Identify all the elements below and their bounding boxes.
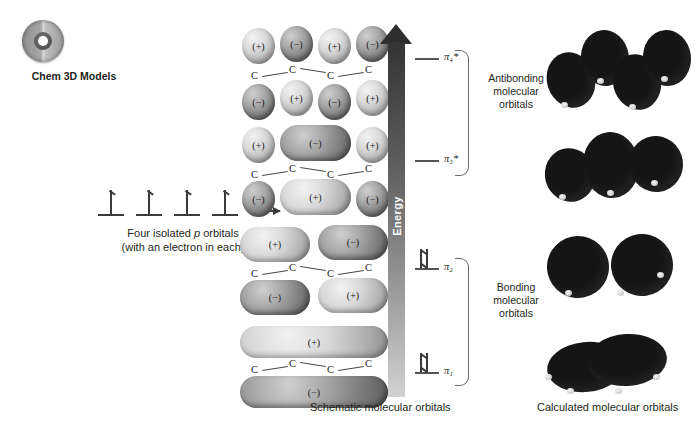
carbon-label: C [289,163,296,174]
lobe-minus: (−) [280,26,313,62]
lobe-sign: (−) [280,26,313,62]
carbon-label: C [327,364,334,375]
caption-part-2: orbitals [200,227,239,239]
schematic-orbital-pi2: (+) (−) C C C C (−) (+) [238,225,390,317]
lobe-sign: (+) [240,326,388,358]
lobe-minus: (−) [242,84,275,120]
lobe-minus-extended: (−) [240,280,310,315]
carbon-label: C [251,364,258,375]
atom-sphere [565,290,572,296]
lobe-minus-extended: (−) [280,125,351,161]
bracket-line: orbitals [470,307,562,320]
atom-sphere [607,190,614,196]
lobe-sign: (+) [242,127,275,163]
lobe-sign: (−) [280,125,351,161]
lobe-plus-extended: (+) [240,326,388,358]
lobe-sign: (+) [356,80,389,116]
level-bar [415,58,439,60]
carbon-label: C [289,64,296,75]
carbon-label: C [289,262,296,273]
atom-sphere [657,272,664,278]
calculated-orbital-pi1 [545,330,690,396]
level-bar [415,160,439,162]
lobe-minus: (−) [242,181,275,217]
atom-sphere [653,374,660,380]
electron-pair [417,352,437,372]
carbon-label: C [365,64,372,75]
atom-sphere [545,374,552,380]
atom-sphere [615,388,622,394]
lobe-sign: (+) [280,179,351,215]
lobe-plus: (+) [242,28,275,64]
lobe-sign: (−) [242,84,275,120]
lobe-sign: (+) [318,278,388,313]
atom-sphere [567,388,574,394]
lobe-sign: (+) [318,28,351,64]
lobe-sign: (−) [318,225,388,260]
atom-sphere [559,194,566,200]
schematic-orbital-pi3star: (+) (−) (+) C C C C (−) (+) (−) [238,125,390,217]
orbital-blob [541,230,615,304]
atom-sphere [661,76,668,82]
schematic-orbital-pi4star: (+) (−) (+) (−) C C C C (−) (+) (−) (+) [238,28,390,120]
energy-arrow-head [380,24,412,44]
orbital-blob [625,133,686,196]
cd-disc-icon [22,20,64,62]
calculated-orbital-pi4star [545,22,690,114]
lobe-sign: (−) [242,181,275,217]
atom-sphere [561,102,568,108]
atom-sphere [617,290,624,296]
lobe-sign: (−) [240,280,310,315]
lobe-minus: (−) [356,181,389,217]
lobe-plus-extended: (+) [318,278,388,313]
level-label: π₁ [444,365,453,376]
lobe-plus-extended: (+) [280,179,351,215]
lobe-plus: (+) [356,127,389,163]
carbon-label: C [251,169,258,180]
electron-pair [417,248,437,268]
caption-calculated: Calculated molecular orbitals [537,401,678,413]
lobe-sign: (+) [280,80,313,116]
carbon-label: C [365,163,372,174]
lobe-plus: (+) [280,80,313,116]
carbon-label: C [289,358,296,369]
lobe-sign: (+) [356,127,389,163]
lobe-minus-extended: (−) [318,225,388,260]
caption-line-2: (with an electron in each) [122,241,245,253]
atom-sphere [629,104,636,110]
carbon-label: C [251,268,258,279]
chem-3d-models-label: Chem 3D Models [9,70,139,82]
cd-hole [38,36,48,46]
level-label: π₂ [444,261,453,272]
carbon-label: C [327,70,334,81]
bracket-antibonding [455,50,469,176]
lobe-minus: (−) [318,84,351,120]
orbital-blob [607,230,677,300]
carbon-label: C [251,70,258,81]
lobe-plus: (+) [242,127,275,163]
lobe-sign: (+) [242,28,275,64]
carbon-label: C [365,358,372,369]
caption-schematic: Schematic molecular orbitals [310,401,451,413]
lobe-plus-extended: (+) [240,227,310,262]
atom-sphere [651,180,658,186]
calculated-orbital-pi2 [545,232,690,304]
bracket-bonding [455,258,469,386]
carbon-label: C [365,262,372,273]
lobe-sign: (−) [356,181,389,217]
atom-sphere [597,78,604,84]
lobe-sign: (−) [318,84,351,120]
lobe-sign: (+) [240,227,310,262]
energy-axis-label: Energy [391,176,403,256]
calculated-orbital-pi3star [545,128,690,206]
caption-part-1: Four isolated [127,227,194,239]
lobe-plus: (+) [318,28,351,64]
lobe-plus: (+) [356,80,389,116]
